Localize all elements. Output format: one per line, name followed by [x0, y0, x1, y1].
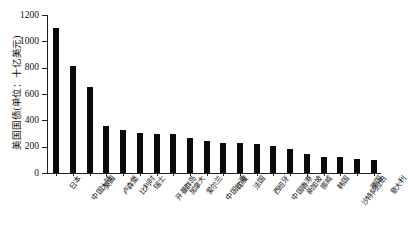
y-tick-label: 600: [25, 88, 39, 100]
bar: [120, 130, 126, 173]
bar: [337, 157, 343, 173]
bar: [321, 157, 327, 173]
y-tick-label: 800: [25, 61, 39, 73]
bar: [220, 143, 226, 173]
y-tick: 0: [42, 173, 47, 174]
bar: [170, 134, 176, 173]
plot-area: 020040060080010001200: [47, 15, 381, 173]
x-axis-label: 西班牙: [272, 175, 291, 196]
x-axis-label: 法国: [252, 175, 267, 191]
bar: [270, 146, 276, 173]
bar: [87, 87, 93, 173]
bar: [237, 143, 243, 173]
bar: [53, 28, 59, 173]
x-axis-label: 日本: [69, 175, 84, 191]
y-tick-label: 400: [25, 114, 39, 126]
y-tick-label: 1200: [20, 9, 39, 21]
y-tick-label: 0: [34, 167, 39, 179]
x-axis-label: 卢森堡: [122, 175, 141, 196]
bars-layer: [47, 15, 381, 173]
x-axis-line: [47, 173, 381, 174]
bar: [187, 138, 193, 173]
bar: [371, 160, 377, 173]
x-axis-label: 韩国: [336, 175, 351, 191]
y-tick-label: 1000: [20, 35, 39, 47]
x-axis-label: 意大利: [389, 175, 408, 196]
bar: [204, 141, 210, 173]
bar: [103, 126, 109, 173]
bar: [254, 144, 260, 173]
x-axis-labels: 日本中国大陆英国卢森堡比利时瑞士开曼群岛加拿大爱尔兰中国台湾印度法国西班牙中国香…: [47, 175, 386, 238]
bar: [137, 133, 143, 173]
y-tick-label: 200: [25, 140, 39, 152]
bar: [304, 154, 310, 173]
bar: [354, 159, 360, 173]
bar: [70, 66, 76, 173]
x-axis-label: 爱尔兰: [205, 175, 224, 196]
bar: [154, 134, 160, 174]
bar: [287, 149, 293, 173]
